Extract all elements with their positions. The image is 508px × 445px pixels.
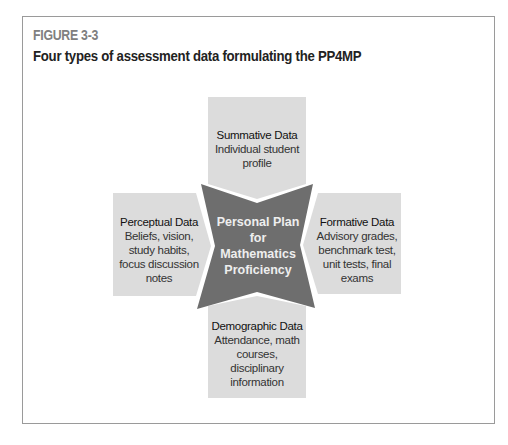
- formative-line-3: unit tests, final: [313, 257, 401, 271]
- perceptual-line-4: notes: [113, 271, 205, 285]
- center-line-3: Mathematics: [211, 246, 305, 262]
- formative-line-4: exams: [313, 271, 401, 285]
- formative-line-1: Advisory grades,: [313, 229, 401, 243]
- perceptual-line-2: study habits,: [113, 243, 205, 257]
- perceptual-text: Perceptual Data Beliefs, vision, study h…: [113, 215, 205, 285]
- summative-heading: Summative Data: [208, 128, 306, 142]
- center-text: Personal Plan for Mathematics Proficienc…: [211, 214, 305, 278]
- summative-text: Summative Data Individual student profil…: [208, 128, 306, 170]
- formative-heading: Formative Data: [313, 215, 401, 229]
- demographic-line-3: disciplinary: [208, 361, 306, 375]
- perceptual-line-3: focus discussion: [113, 257, 205, 271]
- center-line-4: Proficiency: [211, 262, 305, 278]
- summative-line-1: Individual student: [208, 142, 306, 156]
- demographic-line-4: information: [208, 375, 306, 389]
- perceptual-line-1: Beliefs, vision,: [113, 229, 205, 243]
- center-line-2: for: [211, 230, 305, 246]
- demographic-line-1: Attendance, math: [208, 333, 306, 347]
- formative-text: Formative Data Advisory grades, benchmar…: [313, 215, 401, 285]
- perceptual-heading: Perceptual Data: [113, 215, 205, 229]
- demographic-line-2: courses,: [208, 347, 306, 361]
- summative-line-2: profile: [208, 156, 306, 170]
- demographic-text: Demographic Data Attendance, math course…: [208, 319, 306, 389]
- demographic-heading: Demographic Data: [208, 319, 306, 333]
- formative-line-2: benchmark test,: [313, 243, 401, 257]
- center-line-1: Personal Plan: [211, 214, 305, 230]
